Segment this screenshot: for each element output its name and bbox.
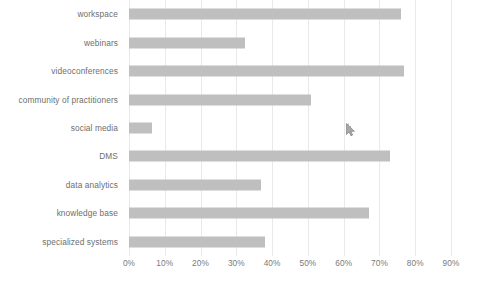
gridline-70	[379, 0, 380, 256]
value-tick-label: 50%	[299, 258, 316, 268]
value-tick-label: 60%	[335, 258, 352, 268]
bar	[129, 208, 369, 219]
category-label: webinars	[84, 38, 118, 48]
bar	[129, 123, 152, 134]
value-tick-label: 40%	[264, 258, 281, 268]
category-label: videoconferences	[51, 66, 118, 76]
plot-area	[129, 0, 451, 256]
value-tick-label: 10%	[156, 258, 173, 268]
category-label: community of practitioners	[19, 95, 118, 105]
category-axis-labels: workspacewebinarsvideoconferencescommuni…	[0, 0, 124, 256]
value-tick-label: 70%	[371, 258, 388, 268]
category-label: data analytics	[66, 180, 118, 190]
bar-chart: workspacewebinarsvideoconferencescommuni…	[0, 0, 478, 292]
category-label: DMS	[99, 151, 118, 161]
value-tick-label: 0%	[123, 258, 135, 268]
gridline-90	[451, 0, 452, 256]
bar	[129, 66, 404, 77]
bar	[129, 236, 265, 247]
value-axis-labels: 0%10%20%30%40%50%60%70%80%90%	[129, 258, 451, 278]
value-tick-label: 20%	[192, 258, 209, 268]
value-tick-label: 80%	[407, 258, 424, 268]
value-tick-label: 30%	[228, 258, 245, 268]
bar	[129, 9, 401, 20]
category-label: workspace	[77, 9, 118, 19]
category-label: knowledge base	[57, 208, 118, 218]
bar	[129, 94, 311, 105]
value-tick-label: 90%	[443, 258, 460, 268]
category-label: specialized systems	[42, 237, 118, 247]
bar	[129, 37, 245, 48]
bar	[129, 179, 261, 190]
bar	[129, 151, 390, 162]
gridline-80	[415, 0, 416, 256]
category-label: social media	[71, 123, 118, 133]
